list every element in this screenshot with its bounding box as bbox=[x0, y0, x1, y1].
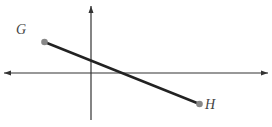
x-axis bbox=[4, 71, 268, 76]
y-axis-up-arrow-icon bbox=[89, 6, 94, 13]
coordinate-plane: G H bbox=[0, 0, 272, 127]
x-axis-right-arrow-icon bbox=[261, 71, 268, 76]
x-axis-left-arrow-icon bbox=[4, 71, 11, 76]
point-G bbox=[41, 39, 48, 46]
point-G-label: G bbox=[16, 22, 26, 37]
y-axis bbox=[89, 6, 94, 120]
point-H-label: H bbox=[204, 97, 216, 112]
point-H bbox=[196, 101, 203, 108]
